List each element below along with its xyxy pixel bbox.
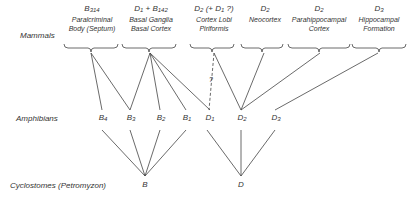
- mammal-group-basal-ganglia: D1 + B142 Basal Ganglia Basal Cortex: [120, 4, 182, 33]
- mammal-group-neocortex: D2 Neocortex: [240, 4, 290, 24]
- node-d: D: [238, 180, 244, 189]
- node-b: B: [142, 180, 147, 189]
- node-d3: D3: [271, 113, 280, 122]
- row-label-mammals: Mammals: [20, 31, 55, 40]
- brace-cortex-piriformis: [190, 44, 234, 52]
- mammal-group-hippocampal: D3 Hippocampal Formation: [350, 4, 408, 33]
- brace-neocortex: [241, 44, 283, 52]
- node-d2: D2: [237, 113, 246, 122]
- node-b2: B2: [157, 113, 166, 122]
- brace-parahippocampal: [288, 44, 350, 52]
- node-b1: B1: [183, 113, 192, 122]
- uncertain-mark: ?: [209, 76, 213, 83]
- brace-b314: [64, 44, 118, 52]
- mammal-group-b314: B314 Paralcriminal Body (Septum): [62, 4, 122, 33]
- mammal-group-cortex-lobi-piriformis: D2 (+ D1 ?) Cortex Lobi Piriformis: [186, 4, 242, 33]
- brace-hippocampal: [352, 44, 406, 52]
- node-b3: B3: [127, 113, 136, 122]
- brace-d1-b142: [122, 44, 176, 52]
- node-d1: D1: [205, 113, 214, 122]
- row-label-amphibians: Amphibians: [16, 114, 58, 123]
- mammal-group-parahippocampal: D2 Parahippocampal Cortex: [288, 4, 350, 33]
- node-b4: B4: [99, 113, 108, 122]
- row-label-cyclostomes: Cyclostomes (Petromyzon): [10, 181, 106, 190]
